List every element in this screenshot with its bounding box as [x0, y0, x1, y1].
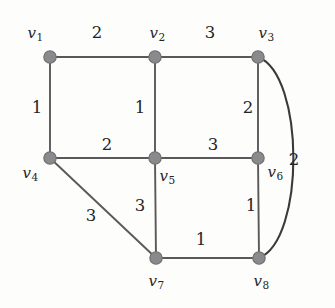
edge-weight-v1-v4: 1	[32, 100, 43, 117]
edge-weight-v4-v7: 3	[86, 208, 97, 225]
node-v5[interactable]	[149, 152, 161, 164]
edge-weight-v4-v5: 2	[102, 137, 113, 154]
node-label-v2: v2	[149, 26, 164, 41]
graph-canvas	[0, 0, 335, 308]
edge-weight-v3-v8: 2	[289, 152, 300, 169]
node-v8[interactable]	[253, 252, 265, 264]
edge-weight-v3-v6: 2	[243, 100, 254, 117]
edge-weight-v5-v6: 3	[208, 137, 219, 154]
edge-weight-v2-v3: 3	[205, 25, 216, 42]
node-label-v1: v1	[27, 26, 42, 41]
node-label-v7: v7	[148, 274, 163, 289]
edge-weight-v2-v5: 1	[135, 100, 146, 117]
node-v4[interactable]	[44, 152, 56, 164]
weighted-graph-figure: 231122333112 v1v2v3v4v5v6v7v8	[0, 0, 335, 308]
node-v7[interactable]	[150, 252, 162, 264]
node-v3[interactable]	[252, 51, 264, 63]
edge-v5-v7	[155, 158, 156, 258]
edge-v6-v8	[258, 158, 259, 258]
edge-weight-v7-v8: 1	[196, 232, 207, 249]
node-label-v8: v8	[253, 274, 268, 289]
edge-weight-v5-v7: 3	[135, 198, 146, 215]
edge-weight-v6-v8: 1	[246, 198, 257, 215]
node-v1[interactable]	[44, 51, 56, 63]
node-label-v5: v5	[159, 169, 174, 184]
node-label-v4: v4	[22, 166, 37, 181]
node-v2[interactable]	[149, 51, 161, 63]
node-label-v3: v3	[258, 26, 273, 41]
node-label-v6: v6	[267, 165, 282, 180]
node-v6[interactable]	[252, 152, 264, 164]
edge-weight-v1-v2: 2	[92, 25, 103, 42]
